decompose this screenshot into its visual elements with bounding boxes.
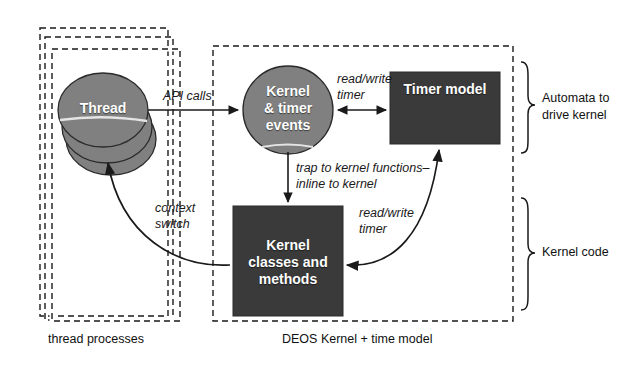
group-caption-deos-kernel: DEOS Kernel + time model [282, 332, 432, 346]
node-label-kernel-timer-events-line1: Kernel [248, 84, 328, 100]
automata-brace-path [521, 62, 535, 153]
diagram-canvas: Thread Kernel & timer events Timer model… [0, 0, 627, 374]
node-label-thread: Thread [63, 101, 143, 117]
group-caption-thread-processes: thread processes [48, 332, 144, 346]
node-label-kernel-classes-line2: classes and [233, 255, 343, 271]
edge-label-read-write-timer-bottom-line1: read/write [359, 206, 414, 220]
edge-label-trap-to-kernel-line1: trap to kernel functions– [296, 161, 429, 175]
edge-label-context-switch-line1: context [155, 201, 195, 215]
brace-automata [521, 62, 535, 153]
node-label-kernel-classes-line3: methods [233, 272, 343, 288]
edge-label-context-switch-line2: switch [155, 217, 190, 231]
node-label-kernel-timer-events-line3: events [248, 118, 328, 134]
brace-kernel-code [521, 198, 535, 310]
edge-label-trap-to-kernel-line2: inline to kernel [296, 177, 377, 191]
brace-label-automata-line2: drive kernel [542, 108, 607, 122]
kernel-code-brace-path [521, 198, 535, 310]
edge-label-read-write-timer-top-line1: read/write [337, 72, 392, 86]
node-label-kernel-timer-events-line2: & timer [248, 101, 328, 117]
edge-label-read-write-timer-top-line2: timer [337, 88, 365, 102]
edge-label-read-write-timer-bottom-line2: timer [359, 222, 387, 236]
node-thread[interactable] [58, 73, 156, 175]
edge-label-api-calls: API calls [163, 89, 212, 103]
brace-label-kernel-code: Kernel code [542, 245, 609, 259]
node-label-kernel-classes-line1: Kernel [233, 238, 343, 254]
node-label-timer-model: Timer model [390, 82, 500, 98]
brace-label-automata-line1: Automata to [542, 91, 609, 105]
